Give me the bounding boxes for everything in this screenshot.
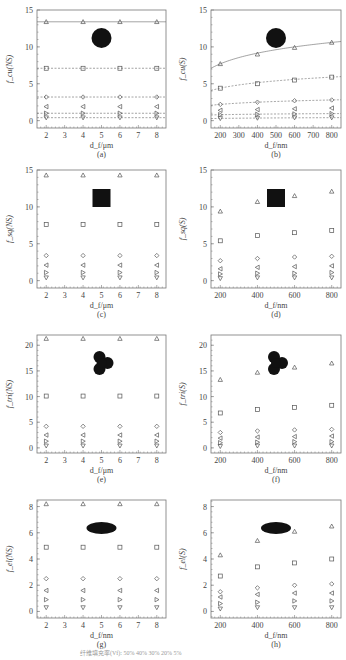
svg-text:8: 8 xyxy=(155,456,159,465)
svg-text:400: 400 xyxy=(251,291,263,300)
svg-text:6: 6 xyxy=(29,529,33,538)
svg-text:(d): (d) xyxy=(271,310,281,319)
svg-text:f_cu(S): f_cu(S) xyxy=(178,57,187,80)
svg-text:3: 3 xyxy=(63,291,67,300)
svg-text:10: 10 xyxy=(25,393,33,402)
series-triangle-right xyxy=(44,597,159,601)
svg-text:0: 0 xyxy=(29,444,33,453)
series-square xyxy=(44,545,159,549)
svg-text:(a): (a) xyxy=(97,150,106,159)
svg-text:200: 200 xyxy=(214,131,226,140)
svg-text:4: 4 xyxy=(81,621,85,630)
svg-text:8: 8 xyxy=(29,503,33,512)
svg-text:7: 7 xyxy=(136,456,140,465)
chart-panel-a: 2345678051015f_cu(NS)d_f/μm(a) xyxy=(0,0,173,160)
svg-text:2: 2 xyxy=(44,131,48,140)
svg-text:5: 5 xyxy=(100,291,104,300)
svg-text:f_sq(NS): f_sq(NS) xyxy=(5,215,14,243)
svg-text:15: 15 xyxy=(199,367,207,376)
svg-text:2: 2 xyxy=(29,581,33,590)
svg-text:8: 8 xyxy=(155,621,159,630)
circle-fiber-icon xyxy=(92,28,112,48)
chart-panel-e: 234567805101520f_tri(NS)d_f/μm(e) xyxy=(0,325,173,485)
series-square xyxy=(218,557,333,578)
svg-text:8: 8 xyxy=(203,503,207,512)
svg-text:f_tri(S): f_tri(S) xyxy=(178,382,187,405)
svg-text:4: 4 xyxy=(29,555,33,564)
series-triangle-left xyxy=(44,588,159,592)
svg-text:6: 6 xyxy=(118,456,122,465)
svg-text:d_f/μm: d_f/μm xyxy=(90,466,114,475)
svg-text:d_f/nm: d_f/nm xyxy=(264,301,288,310)
series-diamond xyxy=(44,424,159,428)
svg-text:f_tri(NS): f_tri(NS) xyxy=(5,379,14,408)
svg-text:d_f/nm: d_f/nm xyxy=(90,631,114,640)
svg-text:400: 400 xyxy=(251,131,263,140)
chart-panel-g: 234567802468f_el(NS)d_f/nm(g) xyxy=(0,490,173,650)
svg-text:20: 20 xyxy=(25,341,33,350)
svg-text:d_f/μm: d_f/μm xyxy=(90,141,114,150)
svg-text:600: 600 xyxy=(289,456,301,465)
svg-text:800: 800 xyxy=(326,621,338,630)
series-triangle-down xyxy=(44,606,159,610)
figure-legend: 纤维填充率(Vf): 50% 40% 30% 20% 5% xyxy=(80,648,300,660)
svg-text:0: 0 xyxy=(29,117,33,126)
svg-text:200: 200 xyxy=(214,621,226,630)
svg-text:800: 800 xyxy=(326,291,338,300)
series-triangle-right xyxy=(44,439,159,443)
svg-text:400: 400 xyxy=(251,621,263,630)
svg-text:2: 2 xyxy=(203,581,207,590)
svg-text:5: 5 xyxy=(203,418,207,427)
svg-text:5: 5 xyxy=(203,240,207,249)
series-diamond xyxy=(44,253,159,257)
svg-text:20: 20 xyxy=(199,341,207,350)
series-triangle-left xyxy=(44,104,159,108)
svg-text:7: 7 xyxy=(136,291,140,300)
svg-text:6: 6 xyxy=(203,529,207,538)
series-triangle-left xyxy=(218,434,333,440)
svg-text:(e): (e) xyxy=(97,475,106,484)
chart-panel-h: 20040060080002468f_el(S)d_f/nm(h) xyxy=(173,490,346,650)
square-fiber-icon xyxy=(93,189,111,207)
svg-text:f_el(NS): f_el(NS) xyxy=(5,545,14,572)
chart-panel-d: 200400600800051015f_sq(S)d_f/nm(d) xyxy=(173,160,346,320)
svg-text:3: 3 xyxy=(63,456,67,465)
svg-text:700: 700 xyxy=(307,131,319,140)
svg-text:d_f/nm: d_f/nm xyxy=(264,631,288,640)
svg-text:15: 15 xyxy=(199,6,207,15)
svg-text:500: 500 xyxy=(270,131,282,140)
series-triangle-right xyxy=(219,440,334,445)
series-triangle-down xyxy=(44,276,159,280)
svg-text:15: 15 xyxy=(25,6,33,15)
svg-text:0: 0 xyxy=(203,117,207,126)
svg-text:2: 2 xyxy=(44,456,48,465)
series-triangle-left xyxy=(218,591,333,599)
chart-panel-b: 200300400500600700800051015f_cu(S)d_f/nm… xyxy=(173,0,346,160)
svg-text:600: 600 xyxy=(289,621,301,630)
svg-text:200: 200 xyxy=(214,291,226,300)
svg-text:0: 0 xyxy=(29,607,33,616)
series-diamond xyxy=(218,582,334,594)
svg-text:800: 800 xyxy=(326,456,338,465)
svg-text:0: 0 xyxy=(29,277,33,286)
series-triangle-down xyxy=(218,116,334,121)
trilobal-fiber-icon xyxy=(268,351,288,375)
svg-text:5: 5 xyxy=(29,418,33,427)
series-square xyxy=(44,394,159,398)
svg-text:d_f/nm: d_f/nm xyxy=(264,141,288,150)
series-square xyxy=(218,228,333,242)
chart-panel-f: 20040060080005101520f_tri(S)d_f/nm(f) xyxy=(173,325,346,485)
series-triangle-left xyxy=(44,433,159,437)
chart-panel-c: 2345678051015f_sq(NS)d_f/μm(c) xyxy=(0,160,173,320)
svg-text:(b): (b) xyxy=(271,150,281,159)
trilobal-fiber-icon xyxy=(94,351,114,375)
svg-text:6: 6 xyxy=(118,291,122,300)
svg-text:10: 10 xyxy=(25,203,33,212)
series-triangle-left xyxy=(218,106,333,113)
svg-text:5: 5 xyxy=(100,621,104,630)
svg-text:400: 400 xyxy=(251,456,263,465)
svg-text:15: 15 xyxy=(199,166,207,175)
svg-text:5: 5 xyxy=(100,131,104,140)
series-diamond xyxy=(218,98,334,107)
series-triangle-left xyxy=(44,263,159,267)
